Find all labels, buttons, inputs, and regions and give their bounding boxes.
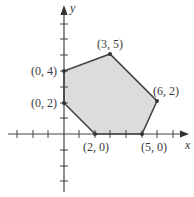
x-axis-arrow-icon — [180, 131, 189, 138]
x-axis-label: x — [184, 138, 191, 152]
label-0-4: (0, 4) — [31, 64, 57, 78]
vertex-2-0 — [93, 132, 97, 136]
coordinate-plane: x y (0, 2) (0, 4) (3, 5) (6, 2) (5, 0) — [0, 0, 194, 197]
y-axis-arrow-icon — [61, 5, 68, 15]
vertex-3-5 — [108, 52, 112, 56]
feasible-region — [64, 54, 157, 134]
vertex-6-2 — [155, 99, 159, 103]
label-5-0: (5, 0) — [141, 140, 167, 154]
label-0-2: (0, 2) — [31, 96, 57, 110]
vertex-5-0 — [140, 132, 144, 136]
vertex-0-2 — [62, 101, 66, 105]
label-3-5: (3, 5) — [97, 37, 123, 51]
vertex-0-4 — [62, 69, 66, 73]
y-axis-label: y — [69, 1, 76, 15]
label-6-2: (6, 2) — [153, 84, 179, 98]
label-2-0: (2, 0) — [83, 140, 109, 154]
